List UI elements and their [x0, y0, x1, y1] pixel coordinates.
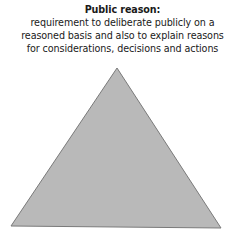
triangle-diagram: [0, 0, 245, 242]
triangle-shape: [11, 68, 221, 228]
